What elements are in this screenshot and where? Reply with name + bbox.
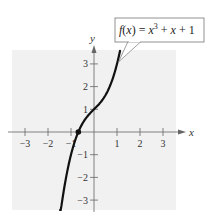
x-intercept-point: [76, 129, 82, 135]
x-tick-label: 3: [161, 138, 166, 149]
function-graph: x −3−2−1123 y 321−1−2−3 f(x) = x3 + x + …: [0, 0, 208, 220]
y-axis-arrow-icon: [92, 45, 97, 53]
function-label: f(x) = x3 + x + 1: [119, 22, 195, 37]
y-tick-label: −1: [77, 149, 88, 160]
y-axis-label: y: [89, 32, 95, 44]
x-tick-label: 1: [115, 138, 120, 149]
x-axis-arrow-icon: [178, 130, 186, 135]
y-tick-label: 1: [83, 104, 88, 115]
y-tick-label: 2: [83, 81, 88, 92]
y-tick-label: 3: [83, 58, 88, 69]
x-tick-label: −2: [43, 138, 54, 149]
x-tick-label: −3: [20, 138, 31, 149]
y-tick-label: −2: [77, 172, 88, 183]
y-tick-label: −3: [77, 195, 88, 206]
x-axis-label: x: [188, 126, 194, 138]
x-tick-label: 2: [138, 138, 143, 149]
